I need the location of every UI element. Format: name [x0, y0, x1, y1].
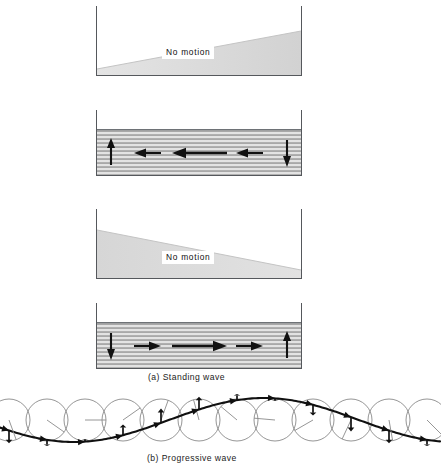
wave-direction-arrowhead [381, 425, 389, 431]
phase-circle [406, 399, 441, 441]
phase-radius-line [254, 418, 275, 420]
wave-direction-arrowhead [343, 412, 351, 418]
particle-velocity-arrow [6, 431, 13, 444]
no-motion-label-1: No motion [162, 46, 214, 59]
phase-circle-group [0, 399, 441, 441]
arrow-up [107, 138, 115, 165]
arrow-right-short-2 [236, 341, 263, 350]
wave-figure: No motion [0, 0, 441, 469]
velocity-arrow-group-right [96, 303, 302, 369]
velocity-arrow-group-left [96, 110, 302, 176]
phase-radius-line [123, 408, 140, 420]
panel-standing-wave-max-displacement-1: No motion [96, 6, 302, 76]
displacement-wedge-thick-left [97, 210, 301, 278]
wave-direction-arrowhead [191, 409, 199, 415]
wave-direction-arrowhead [153, 422, 161, 428]
phase-vector-group [9, 400, 441, 441]
arrow-right-long [172, 341, 227, 351]
caption-standing-wave: (a) Standing wave [148, 372, 225, 382]
phase-radius-line [295, 420, 313, 431]
panel-standing-wave-max-velocity-right [96, 303, 302, 369]
arrow-right-short-1 [134, 341, 161, 350]
arrow-down [283, 140, 291, 167]
particle-velocity-arrow [196, 397, 203, 410]
wave-direction-arrowhead [78, 439, 85, 445]
arrow-down [107, 333, 115, 360]
panel-standing-wave-max-displacement-2: No motion [96, 209, 302, 279]
displacement-wedge-thin-left [97, 7, 301, 75]
phase-radius-line [47, 420, 64, 432]
no-motion-label-2: No motion [162, 251, 214, 264]
arrow-left-long [172, 148, 227, 158]
caption-progressive-wave: (b) Progressive wave [147, 453, 237, 463]
arrow-left-short-1 [134, 148, 161, 157]
particle-velocity-arrow [158, 408, 165, 422]
phase-radius-line [221, 407, 237, 421]
wave-direction-arrowhead [1, 425, 9, 431]
arrow-up [283, 331, 291, 358]
arrow-left-short-2 [236, 148, 263, 157]
wave-direction-arrowhead [268, 395, 275, 401]
phase-radius-line [427, 420, 441, 435]
progressive-wave-diagram [0, 386, 441, 458]
panel-standing-wave-max-velocity-left [96, 110, 302, 176]
